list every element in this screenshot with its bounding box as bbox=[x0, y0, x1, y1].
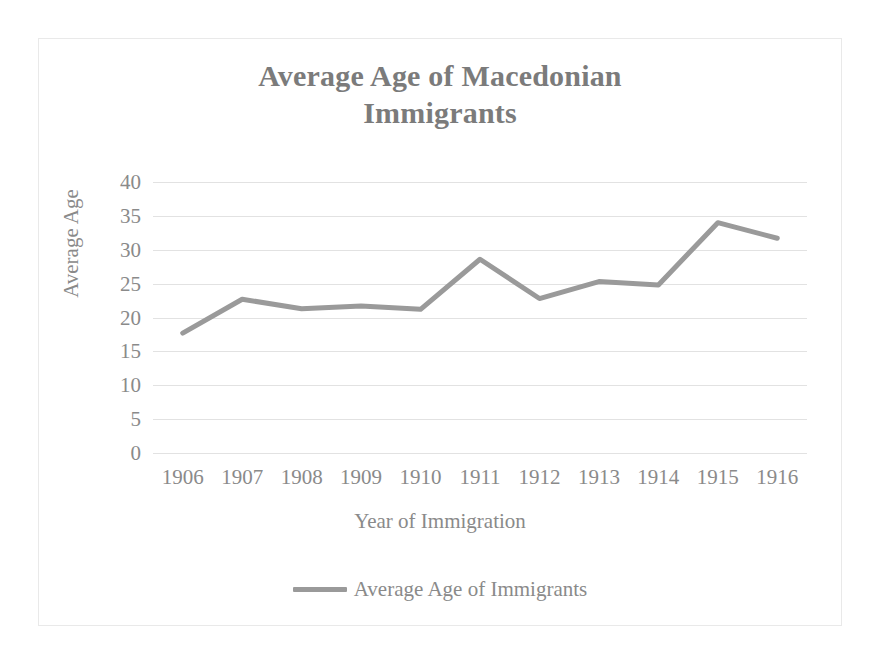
y-axis-tick-labels: 4035302520151050 bbox=[95, 182, 141, 453]
legend-swatch-average-age bbox=[293, 587, 347, 592]
y-axis-tick-label: 35 bbox=[95, 205, 141, 226]
y-axis-tick-label: 10 bbox=[95, 375, 141, 396]
series-polyline bbox=[183, 223, 778, 333]
y-axis-tick-label: 5 bbox=[95, 409, 141, 430]
y-axis-tick-label: 0 bbox=[95, 443, 141, 464]
legend-label-average-age: Average Age of Immigrants bbox=[354, 579, 587, 600]
y-axis-title: Average Age bbox=[59, 144, 84, 344]
gridline bbox=[153, 453, 807, 454]
y-axis-tick-label: 25 bbox=[95, 273, 141, 294]
series-line-average-age bbox=[153, 182, 807, 453]
y-axis-tick-label: 30 bbox=[95, 239, 141, 260]
y-axis-tick-label: 40 bbox=[95, 172, 141, 193]
chart-title-line-1: Average Age of Macedonian bbox=[39, 57, 841, 94]
plot-area bbox=[153, 182, 807, 453]
chart-container: Average Age of Macedonian Immigrants Ave… bbox=[38, 38, 842, 626]
y-axis-tick-label: 20 bbox=[95, 307, 141, 328]
chart-title: Average Age of Macedonian Immigrants bbox=[39, 57, 841, 131]
y-axis-tick-label: 15 bbox=[95, 341, 141, 362]
x-axis-tick-labels: 1906190719081909191019111912191319141915… bbox=[153, 467, 807, 497]
x-axis-title: Year of Immigration bbox=[39, 509, 841, 534]
chart-legend: Average Age of Immigrants bbox=[39, 579, 841, 600]
chart-title-line-2: Immigrants bbox=[39, 94, 841, 131]
x-axis-tick-label: 1916 bbox=[742, 467, 812, 488]
